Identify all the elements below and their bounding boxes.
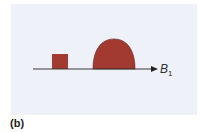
axis-label-text: B: [160, 62, 168, 76]
axis-label-subscript: 1: [168, 69, 172, 78]
dome-shape: [93, 39, 135, 69]
square-shape: [52, 54, 68, 69]
diagram-graphic: [0, 0, 203, 132]
panel-label: (b): [10, 117, 24, 129]
arrow-head-icon: [151, 66, 158, 72]
axis-label: B1: [160, 62, 172, 78]
